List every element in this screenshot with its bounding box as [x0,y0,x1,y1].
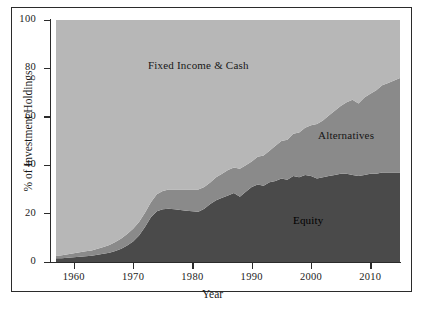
x-tick-label-1990: 1990 [229,271,275,282]
area-series-group [56,20,400,262]
series-label-fixed-income: Fixed Income & Cash [148,59,249,71]
x-axis-line [49,262,401,263]
x-tick-1960 [74,263,75,269]
y-tick-label-40: 40 [0,158,36,169]
y-tick-label-80: 80 [0,61,36,72]
x-tick-label-1980: 1980 [169,271,215,282]
y-tick-label-100: 100 [0,13,36,24]
x-tick-2010 [370,263,371,269]
x-tick-label-1970: 1970 [110,271,156,282]
y-axis-line [50,19,51,263]
plot-area [56,20,400,262]
x-tick-2000 [311,263,312,269]
x-tick-1970 [133,263,134,269]
y-tick-label-0: 0 [0,255,36,266]
chart-figure: % of Investment Holdings 0 20 40 60 80 1… [0,0,425,312]
x-tick-label-2010: 2010 [347,271,393,282]
series-label-alternatives: Alternatives [318,129,374,141]
series-label-equity: Equity [293,214,324,226]
x-axis-title: Year [0,288,425,300]
y-tick-label-20: 20 [0,207,36,218]
y-tick-label-60: 60 [0,110,36,121]
x-tick-1990 [252,263,253,269]
x-tick-label-2000: 2000 [288,271,334,282]
stacked-area-svg [56,20,400,262]
x-tick-label-1960: 1960 [51,271,97,282]
x-tick-1980 [192,263,193,269]
